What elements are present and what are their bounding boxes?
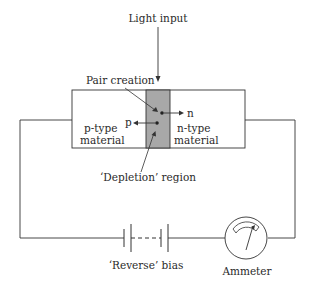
depletion-region-label: ‘Depletion’ region <box>100 171 196 183</box>
depletion-region <box>146 90 170 148</box>
ammeter-icon <box>225 217 267 259</box>
n-type-label: n-type <box>177 122 210 134</box>
hole-dot <box>155 121 159 125</box>
light-input-arrow <box>156 27 161 82</box>
light-input-label: Light input <box>128 12 188 24</box>
pair-creation-label: Pair creation <box>86 74 155 86</box>
electron-dot <box>160 111 164 115</box>
n-carrier-label: n <box>187 107 194 119</box>
photodiode-diagram: Light input Pair creation n p p-type mat… <box>0 0 312 284</box>
p-type-material-label: material <box>80 134 125 146</box>
ammeter-label: Ammeter <box>221 265 272 277</box>
battery-symbol <box>124 224 168 252</box>
p-carrier-label: p <box>125 116 132 128</box>
p-type-label: p-type <box>84 122 117 134</box>
reverse-bias-label: ‘Reverse’ bias <box>109 259 184 271</box>
n-type-material-label: material <box>174 134 219 146</box>
